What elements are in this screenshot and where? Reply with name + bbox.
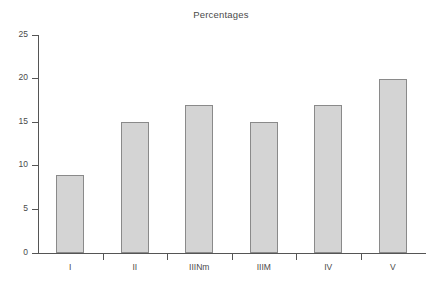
- x-axis-tick: [167, 254, 168, 260]
- y-axis-tick-label: 5: [23, 203, 28, 213]
- x-axis-tick-label: I: [69, 262, 71, 272]
- x-axis-tick-label: II: [132, 262, 137, 272]
- y-axis-tick: 15: [32, 122, 38, 123]
- y-axis-tick: 0: [32, 253, 38, 254]
- chart-title: Percentages: [0, 9, 442, 20]
- bar: [379, 79, 407, 253]
- y-axis-tick-label: 15: [19, 116, 28, 126]
- y-axis-tick: 25: [32, 35, 38, 36]
- y-axis-tick-label: 20: [19, 72, 28, 82]
- x-axis-tick: [296, 254, 297, 260]
- x-axis-tick-label: IV: [324, 262, 332, 272]
- y-axis-tick-label: 0: [23, 247, 28, 257]
- bar: [314, 105, 342, 253]
- y-axis-line: [38, 35, 39, 254]
- bar: [121, 122, 149, 253]
- x-axis-tick-label: V: [390, 262, 396, 272]
- y-axis-tick-label: 10: [19, 159, 28, 169]
- x-axis-tick: [361, 254, 362, 260]
- y-axis-tick: 10: [32, 165, 38, 166]
- x-axis-tick: [232, 254, 233, 260]
- y-axis-tick-label: 25: [19, 29, 28, 39]
- bar: [250, 122, 278, 253]
- x-axis-tick-label: IIIM: [257, 262, 271, 272]
- bar: [56, 175, 84, 253]
- y-axis-tick: 5: [32, 209, 38, 210]
- y-axis-tick: 20: [32, 78, 38, 79]
- x-axis-tick: [103, 254, 104, 260]
- x-axis-tick-label: IIINm: [189, 262, 209, 272]
- bar-chart: Percentages 0510152025 IIIIIINmIIIMIVV: [0, 0, 442, 284]
- bar: [185, 105, 213, 253]
